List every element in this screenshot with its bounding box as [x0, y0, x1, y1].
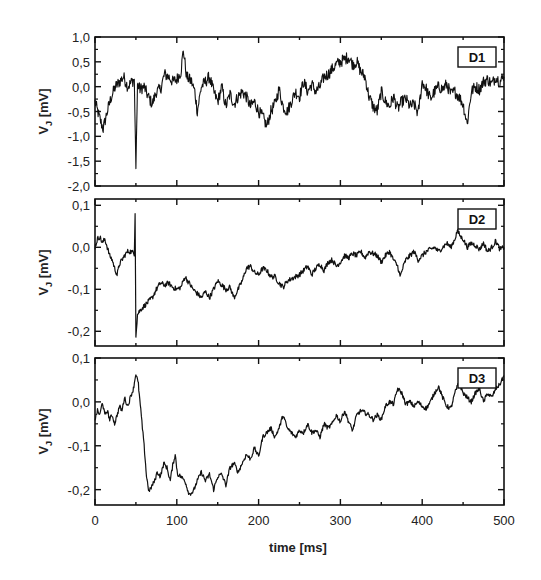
panel-tag-label: D3 — [469, 371, 486, 386]
trace-line — [95, 51, 504, 168]
x-tick-label: 100 — [166, 513, 188, 528]
y-tick-label: -1,5 — [68, 154, 90, 169]
y-axis-title: VJ [mV] — [36, 88, 54, 134]
y-tick-label: 0,0 — [72, 80, 90, 95]
y-tick-label: 0,0 — [72, 395, 90, 410]
y-tick-label: 0,5 — [72, 55, 90, 70]
x-tick-label: 300 — [330, 513, 352, 528]
y-tick-label: -0,1 — [68, 282, 90, 297]
x-tick-label: 0 — [91, 513, 98, 528]
y-tick-label: -1,0 — [68, 129, 90, 144]
y-tick-label: -0,1 — [68, 439, 90, 454]
x-tick-label: 200 — [248, 513, 270, 528]
x-tick-label: 400 — [411, 513, 433, 528]
x-axis-title: time [ms] — [269, 540, 327, 555]
y-tick-label: -2,0 — [68, 179, 90, 194]
plot-frame — [95, 37, 504, 186]
y-axis-title: VJ [mV] — [36, 408, 54, 454]
y-tick-label: -0,2 — [68, 483, 90, 498]
y-tick-label: -0,5 — [68, 105, 90, 120]
trace-line — [95, 375, 504, 495]
panel-d2: 0,10,0-0,1-0,2VJ [mV]D2 — [36, 198, 504, 346]
panel-tag-label: D1 — [469, 50, 486, 65]
panel-d3: 0,10,0-0,1-0,2VJ [mV]D3 — [36, 351, 504, 505]
panel-d1: 1,00,50,0-0,5-1,0-1,5-2,0VJ [mV]D1 — [36, 30, 504, 194]
y-axis-title: VJ [mV] — [36, 249, 54, 295]
y-tick-label: 0,1 — [72, 351, 90, 366]
y-tick-label: -0,2 — [68, 324, 90, 339]
y-tick-label: 1,0 — [72, 30, 90, 45]
x-tick-label: 500 — [493, 513, 515, 528]
panel-tag-label: D2 — [469, 212, 486, 227]
trace-line — [95, 214, 504, 337]
y-tick-label: 0,1 — [72, 198, 90, 213]
figure: 1,00,50,0-0,5-1,0-1,5-2,0VJ [mV]D10,10,0… — [0, 0, 541, 580]
y-tick-label: 0,0 — [72, 240, 90, 255]
